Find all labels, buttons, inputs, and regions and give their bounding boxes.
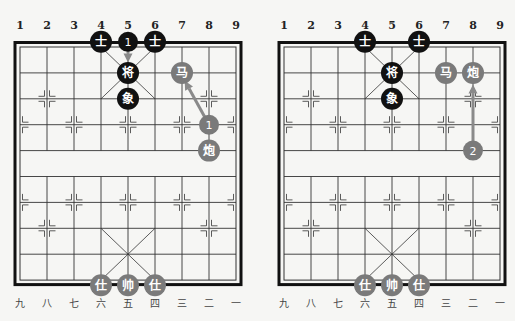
svg-text:马: 马 [176, 66, 188, 80]
point-marker [384, 194, 390, 200]
point-marker [287, 116, 293, 122]
point-marker [303, 220, 309, 226]
point-marker [39, 101, 45, 107]
svg-text:1: 1 [206, 119, 213, 132]
column-label-top: 9 [232, 19, 240, 32]
board-diagram-2: 123456789九八七六五四三二一士士将象马炮仕帅仕2 [279, 19, 505, 309]
point-marker [77, 127, 83, 133]
column-label-bottom: 六 [96, 298, 106, 309]
column-label-top: 6 [151, 19, 159, 32]
point-marker [341, 116, 347, 122]
column-label-bottom: 五 [123, 298, 133, 309]
point-marker [66, 116, 72, 122]
piece-red: 炮 [462, 62, 484, 84]
point-marker [228, 194, 234, 200]
point-marker [228, 127, 234, 133]
piece-red: 仕 [144, 274, 166, 296]
column-label-bottom: 四 [150, 298, 160, 309]
svg-text:将: 将 [122, 65, 134, 80]
point-marker [384, 127, 390, 133]
column-label-top: 1 [16, 19, 24, 32]
point-marker [438, 205, 444, 211]
piece-black: 士 [408, 31, 430, 53]
column-label-top: 7 [442, 19, 450, 32]
point-marker [120, 116, 126, 122]
point-marker [449, 194, 455, 200]
point-marker [330, 127, 336, 133]
point-marker [131, 205, 137, 211]
point-marker [314, 231, 320, 237]
point-marker [314, 220, 320, 226]
point-marker [212, 101, 218, 107]
column-label-top: 3 [334, 19, 342, 32]
point-marker [314, 101, 320, 107]
column-label-top: 8 [205, 19, 213, 32]
point-marker [492, 116, 498, 122]
point-marker [174, 116, 180, 122]
svg-text:士: 士 [95, 34, 107, 49]
svg-text:帅: 帅 [122, 278, 134, 293]
point-marker [449, 127, 455, 133]
point-marker [287, 205, 293, 211]
column-label-bottom: 一 [495, 298, 505, 309]
point-marker [66, 205, 72, 211]
point-marker [174, 127, 180, 133]
step-marker: 1 [118, 32, 138, 52]
point-marker [476, 220, 482, 226]
svg-text:仕: 仕 [94, 278, 107, 293]
column-label-top: 5 [388, 19, 396, 32]
svg-text:象: 象 [386, 91, 398, 106]
step-marker: 2 [463, 141, 483, 161]
column-label-top: 3 [70, 19, 78, 32]
point-marker [438, 127, 444, 133]
point-marker [39, 90, 45, 96]
column-label-bottom: 七 [333, 298, 343, 309]
svg-text:士: 士 [413, 34, 425, 49]
piece-black: 将 [117, 62, 139, 84]
point-marker [341, 194, 347, 200]
point-marker [66, 127, 72, 133]
board-diagram-1: 123456789九八七六五四三二一士士将象马炮仕帅仕11 [15, 19, 241, 309]
svg-text:帅: 帅 [386, 278, 398, 293]
point-marker [287, 194, 293, 200]
point-marker [120, 194, 126, 200]
point-marker [50, 231, 56, 237]
column-label-top: 1 [280, 19, 288, 32]
point-marker [395, 205, 401, 211]
point-marker [330, 205, 336, 211]
point-marker [201, 231, 207, 237]
point-marker [228, 116, 234, 122]
piece-red: 仕 [90, 274, 112, 296]
piece-black: 士 [144, 31, 166, 53]
point-marker [384, 205, 390, 211]
svg-text:马: 马 [440, 66, 452, 80]
point-marker [465, 220, 471, 226]
svg-text:将: 将 [386, 65, 398, 80]
column-label-bottom: 四 [414, 298, 424, 309]
point-marker [120, 205, 126, 211]
point-marker [314, 90, 320, 96]
column-label-top: 9 [496, 19, 504, 32]
column-label-bottom: 三 [177, 298, 187, 309]
point-marker [492, 194, 498, 200]
column-label-bottom: 二 [468, 298, 478, 309]
piece-red: 马 [435, 62, 457, 84]
point-marker [228, 205, 234, 211]
step-marker: 1 [199, 115, 219, 135]
column-label-bottom: 五 [387, 298, 397, 309]
point-marker [449, 205, 455, 211]
column-label-bottom: 三 [441, 298, 451, 309]
point-marker [341, 127, 347, 133]
point-marker [131, 116, 137, 122]
piece-red: 炮 [198, 140, 220, 162]
column-label-bottom: 八 [42, 298, 52, 309]
column-label-top: 4 [97, 19, 105, 32]
arrowhead-icon [124, 54, 133, 63]
column-label-bottom: 六 [360, 298, 370, 309]
point-marker [212, 90, 218, 96]
svg-text:1: 1 [125, 36, 132, 49]
point-marker [77, 205, 83, 211]
point-marker [23, 127, 29, 133]
column-label-top: 8 [469, 19, 477, 32]
column-label-top: 5 [124, 19, 132, 32]
